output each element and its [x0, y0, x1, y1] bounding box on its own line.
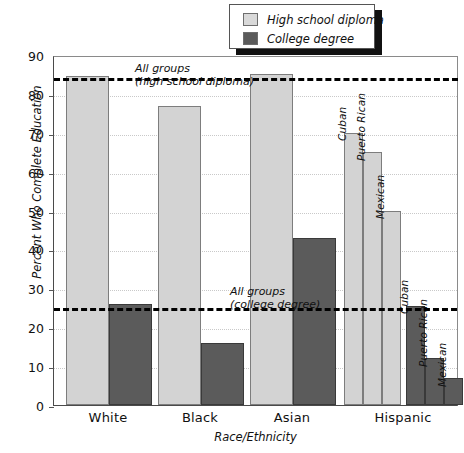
x-category-black: Black [182, 410, 218, 425]
x-category-hispanic: Hispanic [375, 410, 432, 425]
bar-black-high-school-diploma [158, 106, 201, 405]
y-tick-10: 10 [0, 360, 44, 375]
x-axis-title: Race/Ethnicity [53, 430, 458, 444]
plot-area: Cuban Puerto Rican Mexican Cuban Puerto … [53, 56, 458, 406]
tick-mark-50 [49, 213, 54, 214]
y-axis-title: Percent Who Complete Education [30, 57, 44, 307]
tick-mark-60 [49, 174, 54, 175]
legend-item-college-degree: College degree [243, 29, 374, 48]
bar-black-college-degree [201, 343, 244, 405]
legend-label-college-degree: College degree [267, 32, 354, 46]
x-category-white: White [89, 410, 128, 425]
bar-label-hispanic-cuban-hs: Cuban [336, 107, 348, 141]
bar-label-hispanic-mexican-hs: Mexican [374, 175, 386, 219]
bar-hispanic-cuban-high-school-diploma [344, 133, 363, 405]
bar-white-high-school-diploma [66, 76, 109, 405]
reference-annotation-college-degree: All groups (college degree) [230, 286, 320, 312]
reference-line-high-school-diploma [54, 78, 458, 81]
bar-chart: 90 80 70 60 50 40 30 20 10 0 Percent Who… [0, 0, 464, 453]
tick-mark-30 [49, 290, 54, 291]
legend-item-high-school-diploma: High school diploma [243, 10, 374, 29]
cd-ref-label-line2: (college degree) [230, 299, 320, 312]
bar-label-hispanic-puerto-rican-hs: Puerto Rican [355, 93, 367, 161]
tick-mark-20 [49, 329, 54, 330]
legend: High school diploma College degree [229, 4, 375, 49]
bar-white-college-degree [109, 304, 152, 405]
legend-label-high-school-diploma: High school diploma [267, 13, 384, 27]
y-tick-20: 20 [0, 321, 44, 336]
hs-ref-label-line2: (high school diploma) [135, 76, 254, 89]
tick-mark-40 [49, 251, 54, 252]
tick-mark-80 [49, 96, 54, 97]
bar-label-hispanic-mexican-cd: Mexican [436, 343, 448, 387]
legend-swatch-college-degree [243, 32, 258, 45]
legend-swatch-high-school-diploma [243, 13, 258, 26]
tick-mark-10 [49, 368, 54, 369]
reference-annotation-high-school: All groups (high school diploma) [135, 63, 254, 89]
tick-mark-0 [49, 407, 54, 408]
y-tick-0: 0 [0, 399, 44, 414]
bar-asian-college-degree [293, 238, 336, 405]
tick-mark-70 [49, 135, 54, 136]
x-category-asian: Asian [274, 410, 310, 425]
bar-asian-high-school-diploma [250, 74, 293, 405]
